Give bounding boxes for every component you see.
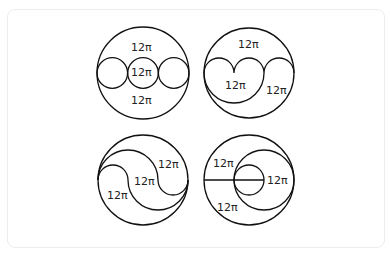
region-label-lower-left: 12π bbox=[217, 201, 238, 214]
equal-area-diagram: 12π 12π 12π 12π 12π 12π 12π 12π 12π 12π … bbox=[0, 0, 390, 258]
inner-circle-left bbox=[97, 58, 128, 89]
region-label-top: 12π bbox=[131, 41, 152, 54]
region-label-center: 12π bbox=[225, 79, 246, 92]
region-label-right: 12π bbox=[267, 174, 288, 187]
upper-arcs bbox=[204, 58, 294, 73]
region-label-bottom: 12π bbox=[131, 94, 152, 107]
panel-bottom-left: 12π 12π 12π bbox=[98, 135, 188, 225]
panel-top-right: 12π 12π 12π bbox=[204, 28, 294, 118]
region-label-middle: 12π bbox=[134, 175, 155, 188]
region-label-middle: 12π bbox=[131, 66, 152, 79]
panel-top-left: 12π 12π 12π bbox=[97, 27, 189, 119]
region-label-right: 12π bbox=[266, 84, 287, 97]
panel-bottom-right: 12π 12π 12π bbox=[204, 135, 294, 225]
region-label-left: 12π bbox=[107, 189, 128, 202]
region-label-upper-left: 12π bbox=[213, 157, 234, 170]
inner-circle-right bbox=[158, 58, 189, 89]
region-label-top: 12π bbox=[238, 38, 259, 51]
region-label-right: 12π bbox=[158, 158, 179, 171]
